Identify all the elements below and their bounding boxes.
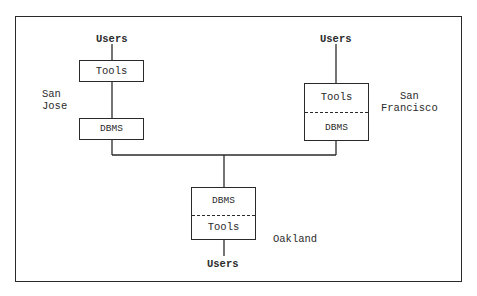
connector-lines — [0, 0, 477, 296]
san-jose-tools-box: Tools — [79, 60, 144, 82]
san-jose-site-label: San Jose — [42, 88, 67, 112]
san-jose-dbms-label: DBMS — [80, 123, 143, 135]
san-francisco-tools-label: Tools — [305, 91, 368, 103]
oakland-divider — [192, 215, 255, 216]
san-francisco-divider — [305, 112, 368, 113]
san-francisco-site-label: San Francisco — [381, 90, 438, 114]
san-francisco-dbms-label: DBMS — [305, 122, 368, 134]
san-francisco-box: Tools DBMS — [304, 83, 369, 141]
oakland-box: DBMS Tools — [191, 187, 256, 240]
oakland-tools-label: Tools — [192, 221, 255, 233]
oakland-site-label: Oakland — [273, 233, 317, 245]
san-jose-users-label: Users — [96, 33, 128, 45]
oakland-dbms-label: DBMS — [192, 195, 255, 207]
san-jose-tools-label: Tools — [80, 65, 143, 77]
san-francisco-users-label: Users — [320, 33, 352, 45]
san-jose-dbms-box: DBMS — [79, 118, 144, 140]
oakland-users-label: Users — [207, 258, 239, 270]
